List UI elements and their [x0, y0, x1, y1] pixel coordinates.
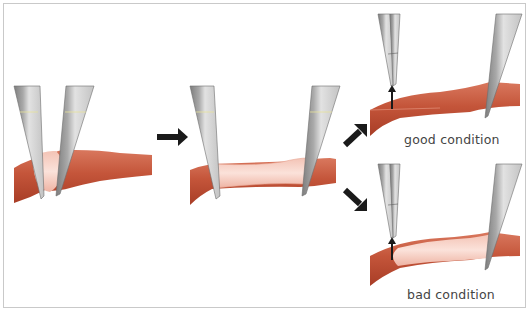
panel-step2	[190, 86, 340, 205]
forceps-open	[378, 14, 400, 86]
panel-step1	[14, 86, 152, 203]
panel-bad-condition	[370, 164, 522, 286]
arrow-step1-to-step2	[157, 128, 188, 146]
good-condition-label: good condition	[404, 132, 500, 147]
arrow-step2-to-good	[345, 124, 367, 145]
bad-condition-label: bad condition	[407, 287, 495, 302]
forceps-open	[378, 164, 400, 238]
arrow-step2-to-bad	[345, 190, 367, 211]
procedure-diagram	[0, 0, 531, 313]
panel-good-condition	[370, 14, 522, 136]
